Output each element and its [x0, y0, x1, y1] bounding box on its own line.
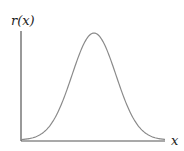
bell-curve [21, 33, 165, 140]
x-axis-label: x [171, 133, 179, 148]
y-axis-label: r(x) [11, 13, 35, 28]
chart: r(x) x [0, 0, 184, 151]
